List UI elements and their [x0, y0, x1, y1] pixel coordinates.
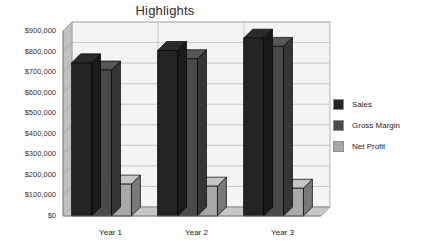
bar-side-gross-margin	[111, 61, 120, 216]
legend-swatch-icon	[333, 99, 344, 110]
legend-label: Net Profit	[352, 142, 385, 151]
chart-legend: SalesGross MarginNet Profit	[333, 94, 400, 157]
y-tick-label: $0	[2, 212, 56, 220]
bar-side-sales	[92, 54, 101, 216]
y-tick-label: $700,000	[2, 68, 56, 76]
y-tick-label: $500,000	[2, 109, 56, 117]
y-tick-label: $100,000	[2, 191, 56, 199]
plot-left-wall	[63, 22, 72, 216]
x-tick-label-year-1: Year 1	[81, 228, 141, 237]
legend-item-net-profit[interactable]: Net Profit	[333, 136, 400, 157]
y-tick-label: $900,000	[2, 27, 56, 35]
y-tick-label: $800,000	[2, 48, 56, 56]
legend-label: Gross Margin	[352, 121, 400, 130]
chart-container: Highlights $0$100,000$200,000$300,000$40…	[0, 0, 421, 249]
legend-item-sales[interactable]: Sales	[333, 94, 400, 115]
bar-year-2-sales	[158, 51, 178, 216]
legend-swatch-icon	[333, 120, 344, 131]
bar-year-1-sales	[72, 63, 92, 216]
bar-side-gross-margin	[197, 50, 206, 216]
bar-side-gross-margin	[283, 37, 292, 216]
y-tick-label: $400,000	[2, 130, 56, 138]
bar-year-3-sales	[244, 38, 264, 216]
legend-swatch-icon	[333, 141, 344, 152]
y-tick-label: $600,000	[2, 89, 56, 97]
bar-side-sales	[178, 42, 187, 216]
bar-side-sales	[264, 29, 273, 216]
y-tick-label: $300,000	[2, 150, 56, 158]
y-tick-label: $200,000	[2, 171, 56, 179]
legend-item-gross-margin[interactable]: Gross Margin	[333, 115, 400, 136]
x-tick-label-year-3: Year 3	[253, 228, 313, 237]
x-tick-label-year-2: Year 2	[167, 228, 227, 237]
legend-label: Sales	[352, 100, 372, 109]
